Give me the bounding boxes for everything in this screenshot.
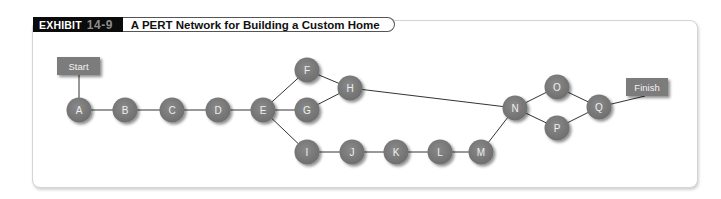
node-b-label: B [122, 105, 129, 116]
node-l-label: L [437, 147, 443, 158]
edge-h-n [350, 88, 515, 108]
node-a-label: A [76, 105, 83, 116]
finish-box: Finish [626, 78, 668, 96]
node-h-label: H [346, 83, 353, 94]
network-nodes [67, 58, 612, 165]
node-k-label: K [393, 147, 400, 158]
exhibit-number: 14-9 [87, 18, 113, 32]
start-box: Start [57, 57, 100, 75]
exhibit-header: EXHIBIT 14-9 A PERT Network for Building… [33, 17, 395, 32]
node-p-label: P [554, 123, 561, 134]
node-d-label: D [214, 105, 221, 116]
node-m-label: M [477, 147, 485, 158]
node-f-label: F [304, 65, 310, 76]
finish-label: Finish [634, 82, 659, 93]
node-j-label: J [350, 147, 355, 158]
diagram-title: A PERT Network for Building a Custom Hom… [123, 17, 395, 32]
node-q-label: Q [595, 102, 603, 113]
node-g-label: G [303, 105, 311, 116]
node-n-label: N [511, 103, 518, 114]
exhibit-label: EXHIBIT [39, 19, 82, 31]
node-e-label: E [260, 105, 267, 116]
start-label: Start [68, 61, 88, 72]
node-c-label: C [168, 105, 175, 116]
node-i-label: I [306, 147, 309, 158]
exhibit-tag: EXHIBIT 14-9 [33, 17, 123, 32]
node-o-label: O [553, 82, 561, 93]
